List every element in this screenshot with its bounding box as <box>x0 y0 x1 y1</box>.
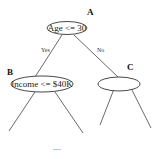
edge-c-right-child <box>131 88 151 128</box>
edge-b-left-child <box>9 92 35 131</box>
node-c-id: C <box>127 62 134 72</box>
decision-tree-diagram: A Age <= 30 Yes No B Income <= $40K C ..… <box>0 0 160 159</box>
edge-label-no: No <box>97 47 104 53</box>
node-a-id: A <box>87 7 94 17</box>
edge-root-to-c <box>74 35 118 77</box>
edge-label-yes: Yes <box>41 47 50 53</box>
edge-c-left-child <box>100 89 114 125</box>
node-a-label: Age <= 30 <box>48 23 87 33</box>
node-c-ellipse <box>98 77 140 91</box>
node-b-label: Income <= $40K <box>11 79 73 89</box>
continuation-ellipsis: .... <box>53 143 61 152</box>
edge-b-right-child <box>55 92 83 133</box>
node-b-id: B <box>7 67 13 77</box>
edge-root-to-b <box>35 35 62 77</box>
